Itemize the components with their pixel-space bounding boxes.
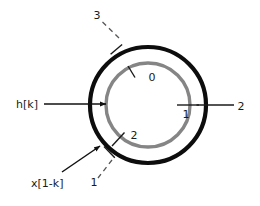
diagram-canvas: 3 2 1 0 1 2 h[k] x[1-k] [0,0,260,206]
signal-label-x1k: x[1-k] [31,177,63,190]
outer-index-label-2: 2 [238,100,245,113]
inner-index-label-0: 0 [149,71,156,84]
outer-index-label-3: 3 [94,9,101,22]
signal-label-hk: h[k] [16,98,38,111]
outer-index-label-1: 1 [91,176,98,189]
inner-index-label-1: 1 [183,108,190,121]
inner-index-label-2: 2 [131,129,138,142]
circular-convolution-diagram: 3 2 1 0 1 2 h[k] x[1-k] [0,0,260,206]
diagram-background [0,0,260,206]
